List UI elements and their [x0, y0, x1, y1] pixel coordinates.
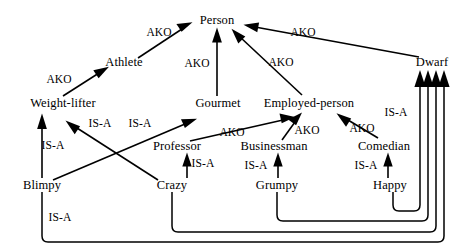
edge-label-comedian-employedperson: AKO [349, 123, 374, 135]
edge-label-professor-employedperson: AKO [219, 127, 244, 139]
node-crazy[interactable]: Crazy [157, 179, 187, 192]
edge-label-blimpy-dwarf: IS-A [49, 212, 72, 224]
node-dwarf[interactable]: Dwarf [416, 56, 448, 69]
semantic-network-diagram: Person Athlete Dwarf Weight-lifter Gourm… [0, 0, 469, 252]
node-gourmet[interactable]: Gourmet [195, 97, 240, 110]
edge-dwarf-person [244, 23, 420, 57]
edge-label-crazy-weightlifter: IS-A [89, 118, 112, 130]
edge-label-happy-comedian: IS-A [355, 160, 378, 172]
node-athlete[interactable]: Athlete [105, 56, 143, 69]
edge-grumpy-businessman [273, 153, 282, 179]
node-grumpy[interactable]: Grumpy [256, 179, 298, 192]
node-happy[interactable]: Happy [373, 179, 407, 192]
edge-label-blimpy-gourmet: IS-A [129, 118, 152, 130]
edge-label-dwarf-person: AKO [290, 27, 315, 39]
node-person[interactable]: Person [200, 14, 235, 27]
node-professor[interactable]: Professor [153, 140, 201, 153]
edge-crazy-professor [182, 153, 191, 179]
edge-happy-comedian [383, 153, 392, 179]
node-employed-person[interactable]: Employed-person [264, 97, 354, 110]
edge-label-businessman-employedperson: AKO [294, 125, 319, 137]
node-blimpy[interactable]: Blimpy [23, 179, 61, 192]
edge-label-crazy-professor: IS-A [192, 158, 215, 170]
edge-label-athlete-person: AKO [146, 27, 171, 39]
edge-label-grumpy-businessman: IS-A [245, 160, 268, 172]
edge-label-gourmet-person: AKO [184, 58, 209, 70]
edge-gourmet-person [212, 28, 222, 97]
edge-label-blimpy-weightlifter: IS-A [42, 140, 65, 152]
node-comedian[interactable]: Comedian [358, 140, 410, 153]
node-businessman[interactable]: Businessman [240, 140, 307, 153]
edge-label-weightlifter-athlete: AKO [46, 74, 71, 86]
edge-label-happy-dwarf: IS-A [385, 107, 408, 119]
node-weight-lifter[interactable]: Weight-lifter [30, 97, 96, 110]
edge-label-employedperson-person: AKO [268, 57, 293, 69]
